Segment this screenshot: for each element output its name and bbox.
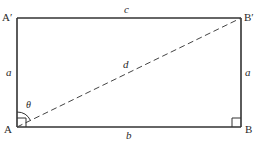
vertex-label-bottom-right: B <box>245 123 252 135</box>
diagonal-dashed <box>17 18 241 127</box>
side-label-right: a <box>245 66 251 78</box>
vertex-label-top-right: B′ <box>244 11 254 23</box>
right-angle-marker-a <box>17 118 26 127</box>
diagonal-label: d <box>123 58 129 70</box>
side-label-top: c <box>124 3 129 15</box>
side-label-bottom: b <box>126 129 132 141</box>
side-label-left: a <box>6 66 12 78</box>
vertex-label-bottom-left: A <box>4 123 12 135</box>
rectangle-diagram: A′ B′ A B c b a a d θ <box>0 0 258 143</box>
vertex-label-top-left: A′ <box>2 11 12 23</box>
angle-arc <box>17 112 31 121</box>
angle-label: θ <box>26 99 31 110</box>
right-angle-marker-b <box>232 118 241 127</box>
